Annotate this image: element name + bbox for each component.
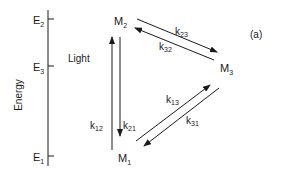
rate-k12: k12 [90, 120, 103, 132]
rate-k32: k32 [159, 41, 172, 53]
state-m2: M2 [114, 15, 127, 29]
light-label: Light [68, 53, 90, 64]
rate-k31: k31 [186, 115, 199, 127]
state-m1: M1 [118, 152, 131, 166]
rate-k13: k13 [166, 94, 179, 106]
rate-k23: k23 [175, 26, 188, 38]
level-label-e2: E2 [33, 14, 44, 28]
level-label-e3: E3 [33, 61, 44, 75]
panel-label: (a) [250, 29, 262, 40]
state-m3: M3 [220, 62, 233, 76]
level-label-e1: E1 [33, 151, 44, 165]
arrow-k13 [136, 85, 210, 141]
axis-label-energy: Energy [13, 79, 24, 111]
rate-k21: k21 [123, 120, 136, 132]
arrow-k31 [144, 88, 219, 146]
three-state-energy-diagram: E2 E3 E1 Energy Light M2 M3 M1 k12 k21 k… [0, 0, 284, 175]
